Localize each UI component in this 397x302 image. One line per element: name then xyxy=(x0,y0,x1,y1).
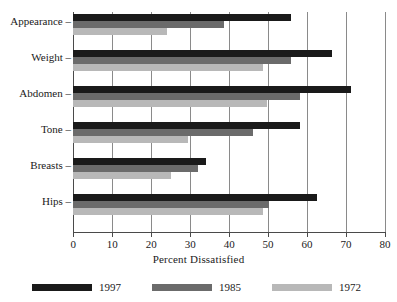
x-axis-label: Percent Dissatisfied xyxy=(0,253,397,265)
legend-label-1997: 1997 xyxy=(99,281,121,293)
bar-weight-1997 xyxy=(73,50,332,57)
y-axis-label-weight: Weight – xyxy=(31,51,71,63)
legend-swatch-1972 xyxy=(272,284,332,291)
chart-figure: 01020304050607080 Appearance –Weight –Ab… xyxy=(0,0,397,302)
bar-breasts-1985 xyxy=(73,165,198,172)
bar-appearance-1997 xyxy=(73,14,291,21)
gridline-80 xyxy=(385,12,386,233)
y-axis-label-hips: Hips – xyxy=(42,195,71,207)
x-tick-mark-50 xyxy=(268,233,269,237)
x-tick-label-60: 60 xyxy=(302,238,313,250)
x-tick-mark-70 xyxy=(346,233,347,237)
legend-swatch-1985 xyxy=(152,284,212,291)
legend-item-1972[interactable]: 1972 xyxy=(272,281,361,293)
x-tick-label-10: 10 xyxy=(107,238,118,250)
bar-abdomen-1985 xyxy=(73,93,300,100)
x-tick-label-30: 30 xyxy=(185,238,196,250)
bar-abdomen-1972 xyxy=(73,100,267,107)
bar-hips-1985 xyxy=(73,201,269,208)
bar-appearance-1985 xyxy=(73,21,224,28)
x-tick-mark-30 xyxy=(190,233,191,237)
chart-legend: 199719851972 xyxy=(0,281,397,299)
bar-appearance-1972 xyxy=(73,28,167,35)
bar-tone-1985 xyxy=(73,129,253,136)
bar-hips-1997 xyxy=(73,194,317,201)
y-axis-label-abdomen: Abdomen – xyxy=(19,87,71,99)
x-tick-mark-40 xyxy=(229,233,230,237)
y-axis-label-tone: Tone – xyxy=(41,123,71,135)
legend-swatch-1997 xyxy=(32,284,92,291)
y-axis-label-appearance: Appearance – xyxy=(10,15,71,27)
bar-tone-1972 xyxy=(73,136,188,143)
legend-item-1997[interactable]: 1997 xyxy=(32,281,121,293)
x-tick-label-0: 0 xyxy=(71,238,77,250)
bar-weight-1985 xyxy=(73,57,291,64)
x-tick-mark-20 xyxy=(151,233,152,237)
x-tick-label-20: 20 xyxy=(146,238,157,250)
bar-hips-1972 xyxy=(73,208,263,215)
x-tick-mark-80 xyxy=(385,233,386,237)
bar-weight-1972 xyxy=(73,64,263,71)
x-tick-mark-10 xyxy=(112,233,113,237)
gridline-70 xyxy=(346,12,347,233)
x-tick-mark-0 xyxy=(73,233,74,237)
bar-breasts-1997 xyxy=(73,158,205,165)
legend-label-1972: 1972 xyxy=(339,281,361,293)
bar-tone-1997 xyxy=(73,122,300,129)
x-tick-label-50: 50 xyxy=(263,238,274,250)
x-tick-mark-60 xyxy=(307,233,308,237)
bar-breasts-1972 xyxy=(73,172,171,179)
bar-abdomen-1997 xyxy=(73,86,351,93)
chart-title xyxy=(0,0,397,2)
legend-label-1985: 1985 xyxy=(219,281,241,293)
legend-item-1985[interactable]: 1985 xyxy=(152,281,241,293)
x-tick-label-40: 40 xyxy=(224,238,235,250)
x-tick-label-80: 80 xyxy=(380,238,391,250)
x-tick-label-70: 70 xyxy=(341,238,352,250)
y-axis-label-breasts: Breasts – xyxy=(30,159,71,171)
